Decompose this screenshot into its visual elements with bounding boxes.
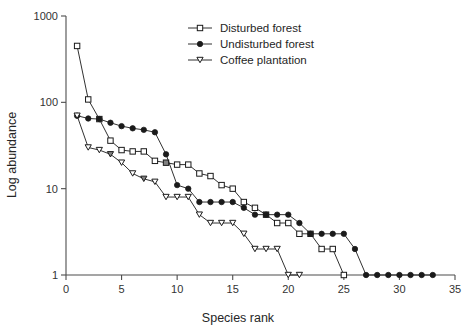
data-point-square-marker (186, 162, 191, 167)
x-tick-label: 0 (63, 283, 69, 295)
data-point-triangle-marker (85, 145, 91, 150)
data-point-square-marker (230, 186, 235, 191)
data-point-square-marker (219, 182, 224, 187)
data-point-circle-marker (308, 231, 313, 236)
legend-item-disturbed-forest: Disturbed forest (188, 22, 302, 34)
data-point-circle-marker (241, 205, 246, 210)
series-undisturbed-forest (74, 113, 435, 278)
data-point-circle-marker (163, 152, 168, 157)
data-point-circle-marker (330, 231, 335, 236)
x-tick-label: 30 (393, 283, 405, 295)
legend-sample-square-marker (197, 25, 202, 30)
data-point-square-marker (197, 171, 202, 176)
data-point-square-marker (286, 220, 291, 225)
data-point-circle-marker (419, 272, 424, 277)
data-point-square-marker (74, 43, 79, 48)
legend-item-undisturbed-forest: Undisturbed forest (188, 38, 315, 50)
data-point-square-marker (152, 158, 157, 163)
data-point-circle-marker (119, 123, 124, 128)
data-point-circle-marker (174, 182, 179, 187)
data-point-circle-marker (97, 116, 102, 121)
data-point-square-marker (119, 147, 124, 152)
data-point-circle-marker (297, 220, 302, 225)
data-point-circle-marker (397, 272, 402, 277)
data-point-square-marker (86, 97, 91, 102)
data-point-circle-marker (230, 199, 235, 204)
data-point-circle-marker (252, 212, 257, 217)
y-tick-label: 1000 (34, 10, 58, 22)
data-point-circle-marker (263, 212, 268, 217)
data-point-triangle-marker (152, 179, 158, 184)
y-tick-label: 10 (46, 183, 58, 195)
y-axis: 1101001000 (34, 10, 66, 281)
data-point-circle-marker (186, 186, 191, 191)
data-point-square-marker (141, 149, 146, 154)
data-point-triangle-marker (96, 147, 102, 152)
data-point-square-marker (241, 199, 246, 204)
legend-item-coffee-plantation: Coffee plantation (188, 54, 307, 66)
data-point-square-marker (130, 149, 135, 154)
y-tick-label: 1 (52, 269, 58, 281)
figure-container: 1101001000 05101520253035 Disturbed fore… (0, 0, 473, 332)
data-point-square-marker (174, 162, 179, 167)
series-layer (74, 43, 435, 277)
data-point-square-marker (252, 205, 257, 210)
data-point-square-marker (341, 272, 346, 277)
y-axis-title: Log abundance (5, 112, 19, 198)
data-point-square-marker (330, 246, 335, 251)
x-tick-label: 20 (282, 283, 294, 295)
legend-sample-circle-marker (197, 41, 202, 46)
data-point-triangle-marker (241, 231, 247, 236)
data-point-square-marker (108, 138, 113, 143)
data-point-square-marker (274, 220, 279, 225)
data-point-circle-marker (363, 272, 368, 277)
data-point-circle-marker (219, 199, 224, 204)
data-point-square-marker (319, 246, 324, 251)
x-tick-label: 10 (171, 283, 183, 295)
x-tick-label: 5 (119, 283, 125, 295)
data-point-circle-marker (141, 127, 146, 132)
legend-label: Undisturbed forest (220, 38, 315, 50)
data-point-circle-marker (430, 272, 435, 277)
data-point-circle-marker (86, 116, 91, 121)
chart-legend: Disturbed forestUndisturbed forestCoffee… (188, 22, 315, 66)
data-point-square-marker (208, 173, 213, 178)
data-point-circle-marker (319, 231, 324, 236)
x-axis: 05101520253035 (63, 275, 461, 295)
data-point-square-marker (297, 231, 302, 236)
legend-label: Disturbed forest (220, 22, 302, 34)
series-disturbed-forest (74, 43, 346, 277)
data-point-circle-marker (286, 212, 291, 217)
data-point-circle-marker (386, 272, 391, 277)
data-point-triangle-marker (130, 171, 136, 176)
x-axis-title: Species rank (202, 311, 275, 325)
data-point-circle-marker (341, 231, 346, 236)
data-point-circle-marker (408, 272, 413, 277)
data-point-triangle-marker (141, 176, 147, 181)
x-tick-label: 25 (338, 283, 350, 295)
chart-svg: 1101001000 05101520253035 Disturbed fore… (0, 0, 473, 332)
y-tick-label: 100 (40, 96, 58, 108)
data-point-circle-marker (208, 199, 213, 204)
data-point-circle-marker (274, 212, 279, 217)
legend-label: Coffee plantation (220, 54, 307, 66)
data-point-circle-marker (352, 246, 357, 251)
data-point-circle-marker (375, 272, 380, 277)
x-tick-label: 15 (227, 283, 239, 295)
data-point-circle-marker (152, 130, 157, 135)
data-point-circle-marker (197, 199, 202, 204)
series-polyline (77, 46, 344, 275)
x-tick-label: 35 (449, 283, 461, 295)
data-point-circle-marker (130, 126, 135, 131)
data-point-circle-marker (108, 120, 113, 125)
